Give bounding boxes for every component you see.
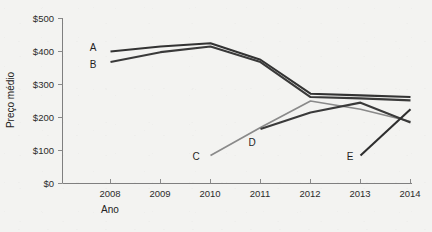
x-tick-label-2012: 2012 — [299, 188, 320, 199]
x-tick-label-2013: 2013 — [349, 188, 370, 199]
series-label-b: B — [90, 59, 97, 70]
y-tick-label-500: $500 — [33, 13, 54, 24]
series-line-a — [111, 43, 411, 97]
y-tick-label-100: $100 — [33, 145, 54, 156]
y-tick-label-400: $400 — [33, 46, 54, 57]
series-label-a: A — [90, 42, 97, 53]
series-lines — [111, 43, 411, 155]
series-line-b — [111, 47, 411, 101]
y-tick-label-200: $200 — [33, 112, 54, 123]
x-tick-label-2014: 2014 — [399, 188, 420, 199]
x-axis-ticks — [111, 179, 411, 184]
series-line-c — [211, 101, 411, 155]
x-tick-label-2011: 2011 — [250, 188, 270, 199]
x-tick-label-2010: 2010 — [199, 188, 220, 199]
y-axis-ticks — [58, 19, 63, 184]
y-tick-label-0: $0 — [43, 178, 54, 189]
x-tick-label-2009: 2009 — [149, 188, 170, 199]
series-label-d: D — [248, 137, 255, 148]
y-tick-label-300: $300 — [33, 79, 54, 90]
x-axis-title: Ano — [101, 204, 119, 215]
price-line-chart: $500 $400 $300 $200 $100 $0 2008 2009 20… — [0, 0, 432, 232]
series-label-e: E — [347, 151, 354, 162]
y-axis-title: Preço médio — [5, 71, 16, 128]
chart-plot-area: $500 $400 $300 $200 $100 $0 2008 2009 20… — [0, 0, 432, 232]
x-tick-label-2008: 2008 — [99, 188, 120, 199]
series-label-c: C — [192, 151, 199, 162]
